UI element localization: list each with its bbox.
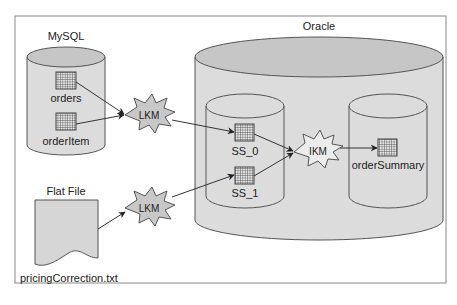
table-icon-ss-0 [235, 124, 254, 141]
flat-file-label: Flat File [46, 185, 85, 197]
table-icon-orderitem [56, 113, 76, 130]
ikm-label: IKM [309, 146, 327, 157]
lkm-file-label: LKM [139, 203, 160, 214]
table-label-ss-0: SS_0 [232, 145, 259, 157]
lkm-mysql-label: LKM [139, 110, 160, 121]
table-icon-orders [56, 72, 76, 89]
table-label-orders: orders [50, 92, 82, 104]
oracle-label: Oracle [303, 20, 335, 32]
flat-file-filename: pricingCorrection.txt [20, 272, 118, 284]
data-flow-diagram: MySQL orders orderItem Flat File pricing… [0, 0, 457, 305]
table-label-ordersummary: orderSummary [352, 159, 425, 171]
table-icon-ordersummary [378, 139, 397, 156]
mysql-label: MySQL [48, 30, 85, 42]
table-label-ss-1: SS_1 [232, 187, 259, 199]
table-icon-ss-1 [235, 167, 254, 184]
table-label-orderitem: orderItem [42, 135, 89, 147]
